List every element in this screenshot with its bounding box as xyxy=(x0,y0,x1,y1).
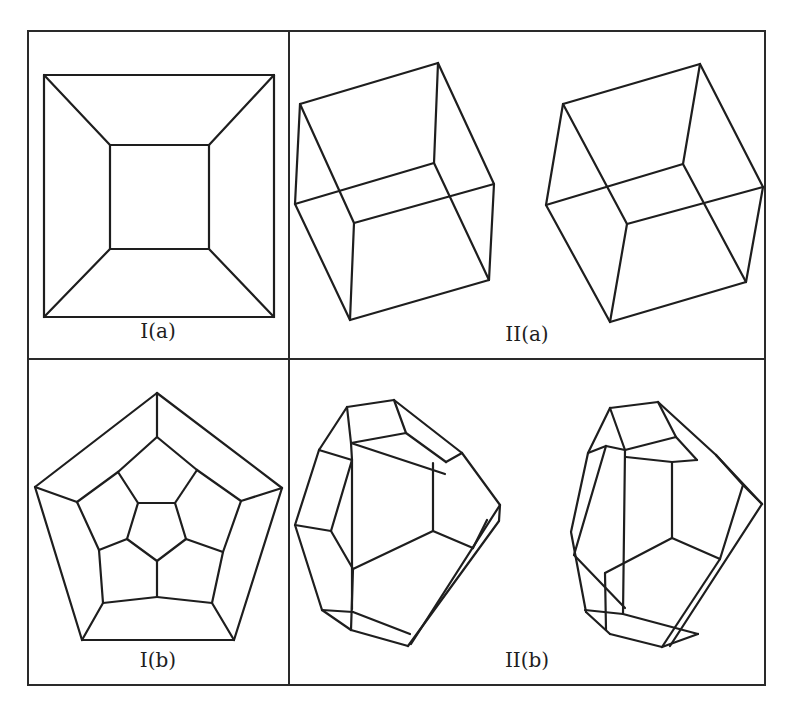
edge xyxy=(499,505,500,521)
cube-stereo-right xyxy=(546,64,763,322)
edge xyxy=(610,634,662,647)
edge xyxy=(627,187,763,224)
edge xyxy=(77,502,99,550)
edge xyxy=(347,400,394,407)
edge xyxy=(571,453,588,532)
edge xyxy=(670,504,762,646)
edge xyxy=(118,472,138,503)
edge xyxy=(446,453,462,462)
edge xyxy=(353,531,433,569)
edge xyxy=(351,443,352,460)
edge xyxy=(295,104,300,204)
edge xyxy=(295,163,434,204)
edge xyxy=(212,552,223,603)
edge xyxy=(350,280,489,320)
edge xyxy=(406,433,446,462)
edge xyxy=(197,470,241,501)
edge xyxy=(175,470,197,503)
figure-canvas xyxy=(0,0,793,708)
edge xyxy=(319,407,347,450)
edge xyxy=(605,538,672,573)
edge xyxy=(157,539,186,561)
cube-stereo-left xyxy=(295,63,494,320)
edge xyxy=(44,249,110,317)
edge xyxy=(44,75,110,145)
edge xyxy=(157,437,197,470)
edge xyxy=(563,104,627,224)
edge xyxy=(610,408,625,450)
edge xyxy=(319,450,352,460)
edge xyxy=(77,472,118,502)
edge xyxy=(300,63,438,104)
edge xyxy=(157,597,212,603)
edge xyxy=(35,487,77,502)
edge xyxy=(157,393,282,488)
edge xyxy=(223,501,241,552)
edge xyxy=(351,443,445,474)
edge xyxy=(743,485,762,504)
edge xyxy=(118,437,157,472)
edge xyxy=(462,453,500,505)
edge xyxy=(99,550,103,603)
edge xyxy=(623,614,698,634)
edge xyxy=(295,450,319,525)
edge xyxy=(295,525,322,610)
edge xyxy=(353,612,410,634)
edge xyxy=(35,393,157,487)
edge xyxy=(434,63,438,163)
edge xyxy=(623,450,625,614)
edge xyxy=(662,559,720,647)
edge xyxy=(354,184,494,223)
edge xyxy=(610,402,658,408)
edge xyxy=(610,224,627,322)
edge xyxy=(672,460,697,462)
edge xyxy=(574,555,625,608)
edge xyxy=(438,63,494,184)
edge xyxy=(610,282,746,322)
edge xyxy=(209,75,274,145)
edge xyxy=(571,532,586,612)
dodecahedron-stereo-left xyxy=(295,400,500,646)
cube-schlegel-diagram xyxy=(44,75,274,317)
panel-label-i-a: I(a) xyxy=(140,319,175,343)
edge xyxy=(82,603,103,640)
edge xyxy=(625,437,676,450)
edge xyxy=(295,525,331,531)
edge xyxy=(672,538,720,559)
edge xyxy=(351,433,406,443)
edge xyxy=(746,187,763,282)
dodecahedron-stereo-right xyxy=(571,402,762,647)
panel-label-ii-a: II(a) xyxy=(505,322,548,346)
edge xyxy=(606,446,625,450)
edge xyxy=(127,503,138,539)
edge xyxy=(186,539,223,552)
edge xyxy=(683,64,700,164)
edge xyxy=(347,407,351,443)
edge xyxy=(546,205,610,322)
edge xyxy=(658,402,716,455)
panel-label-i-b: I(b) xyxy=(140,648,176,672)
edge xyxy=(127,539,157,561)
panel-frame xyxy=(28,31,765,685)
edge xyxy=(351,630,408,646)
edge xyxy=(209,249,274,317)
edge xyxy=(300,104,354,223)
edge xyxy=(99,539,127,550)
edge xyxy=(626,457,672,462)
edge xyxy=(434,163,489,280)
edge xyxy=(700,64,763,187)
edge xyxy=(720,485,743,559)
edge xyxy=(676,437,697,460)
figure: I(a) II(a) I(b) II(b) xyxy=(0,0,793,708)
edge xyxy=(103,597,157,603)
edge xyxy=(563,64,700,104)
edge xyxy=(322,610,351,630)
edge xyxy=(585,610,623,614)
edge xyxy=(350,223,354,320)
edge xyxy=(322,610,353,612)
edge xyxy=(658,402,676,437)
edge xyxy=(473,520,487,548)
dodecahedron-schlegel-diagram xyxy=(35,393,282,640)
edge xyxy=(234,488,282,640)
edge xyxy=(331,531,353,569)
